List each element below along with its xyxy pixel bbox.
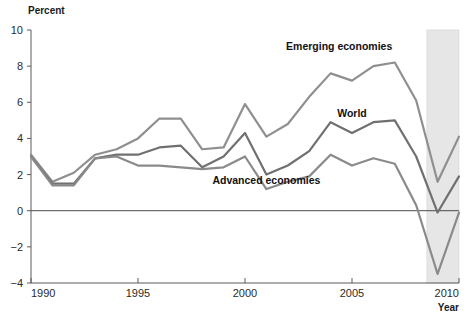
x-tick-label: 2005 (340, 287, 364, 299)
y-tick-label: 6 (17, 96, 23, 108)
y-axis-title: Percent (28, 5, 65, 16)
series-label: Advanced economies (212, 174, 320, 186)
y-tick-label: −2 (10, 241, 23, 253)
series-label: Emerging economies (286, 40, 392, 52)
x-tick-label: 2010 (435, 287, 459, 299)
series-label: World (337, 107, 367, 119)
x-tick-label: 2000 (233, 287, 257, 299)
y-tick-label: 2 (17, 169, 23, 181)
chart-background (0, 0, 472, 316)
x-axis-title: Year (438, 302, 459, 313)
y-tick-label: 8 (17, 60, 23, 72)
y-tick-label: 10 (11, 24, 23, 36)
y-tick-label: 4 (17, 132, 23, 144)
y-tick-label: 0 (17, 205, 23, 217)
x-tick-label: 1990 (31, 287, 55, 299)
y-tick-label: −4 (10, 277, 23, 289)
x-tick-label: 1995 (126, 287, 150, 299)
chart-canvas: 1086420−2−4 19901995200020052010 Percent… (0, 0, 472, 316)
economic-growth-line-chart: 1086420−2−4 19901995200020052010 Percent… (0, 0, 472, 316)
